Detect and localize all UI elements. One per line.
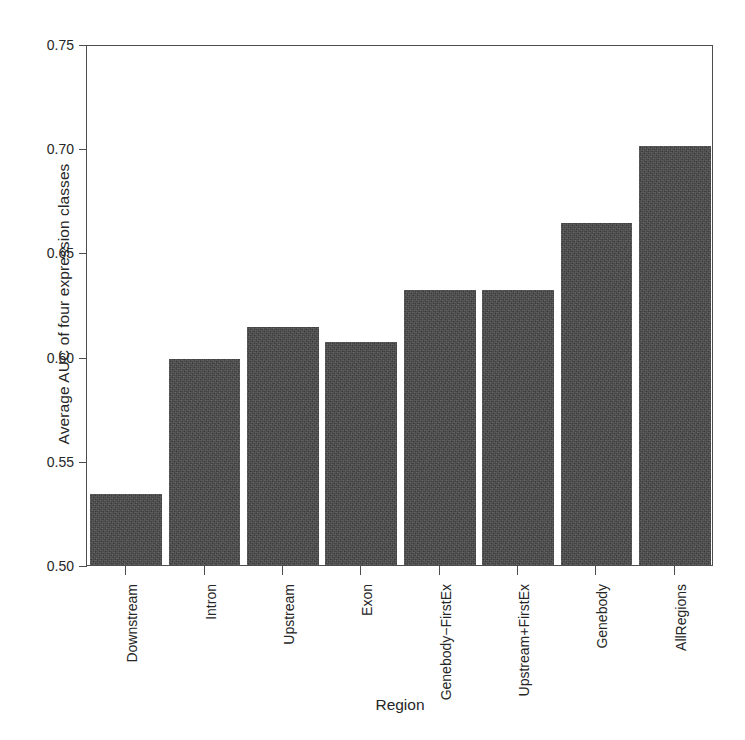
- bar: [90, 494, 162, 565]
- x-tick: [125, 566, 126, 575]
- y-tick-label: 0.75: [47, 37, 74, 53]
- x-tick: [204, 566, 205, 575]
- x-tick-label: Genebody−FirstEx: [438, 584, 454, 700]
- x-tick-label: Upstream: [281, 584, 297, 645]
- bar: [247, 327, 319, 565]
- x-tick-label: Downstream: [124, 584, 140, 663]
- x-tick-label: AllRegions: [673, 584, 689, 651]
- bar: [482, 290, 554, 565]
- x-tick: [595, 566, 596, 575]
- y-tick-label: 0.50: [47, 558, 74, 574]
- plot-area: [86, 45, 713, 566]
- y-axis-title: Average AUC of four expression classes: [55, 44, 73, 564]
- bar: [561, 223, 633, 565]
- bar-chart-figure: Average AUC of four expression classes 0…: [0, 0, 745, 740]
- x-tick: [674, 566, 675, 575]
- y-tick-label: 0.70: [47, 141, 74, 157]
- y-tick-label: 0.60: [47, 350, 74, 366]
- y-tick-label: 0.65: [47, 245, 74, 261]
- x-axis-title: Region: [86, 696, 714, 714]
- x-tick-label: Intron: [203, 584, 219, 620]
- y-tick: 0.50: [79, 566, 87, 567]
- y-tick-label: 0.55: [47, 454, 74, 470]
- bar: [404, 290, 476, 565]
- bar: [169, 359, 241, 565]
- bar: [639, 146, 711, 565]
- bar: [325, 342, 397, 565]
- x-tick: [282, 566, 283, 575]
- x-tick: [517, 566, 518, 575]
- x-tick-label: Exon: [359, 584, 375, 616]
- x-tick: [360, 566, 361, 575]
- x-tick: [439, 566, 440, 575]
- x-tick-label: Upstream+FirstEx: [516, 584, 532, 696]
- x-tick-label: Genebody: [594, 584, 610, 649]
